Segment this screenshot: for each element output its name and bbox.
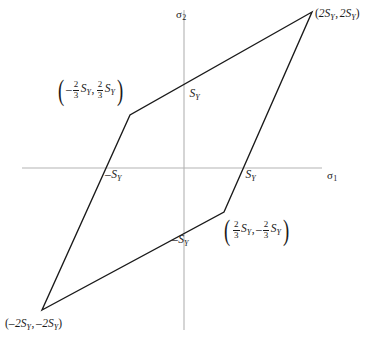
tick-y-negative-subscript: Y xyxy=(184,239,188,248)
yield-surface-figure: σ2 σ1 SY –SY –SY SY (2SY,2SY) (–2SY,–2SY… xyxy=(0,0,390,344)
bottom-left-close-paren: ) xyxy=(58,317,62,329)
lower-right-fraction-2: 2 3 xyxy=(263,220,270,240)
upper-left-denominator-2: 3 xyxy=(97,91,104,100)
upper-left-term-1: – 2 3 SY xyxy=(66,80,91,100)
upper-left-symbol-2: SY xyxy=(104,83,115,97)
upper-left-denominator-1: 3 xyxy=(73,91,80,100)
x-axis-label: σ1 xyxy=(327,170,337,183)
tick-label-x-negative: –SY xyxy=(105,169,121,183)
upper-left-fraction-2: 2 3 xyxy=(97,80,104,100)
x-axis-subscript: 1 xyxy=(333,174,337,183)
lower-right-symbol-2: SY xyxy=(270,223,281,237)
upper-left-subscript-2: Y xyxy=(111,88,115,97)
upper-left-symbol-1: SY xyxy=(80,83,91,97)
upper-left-minus-1: – xyxy=(66,84,72,96)
yield-locus-parallelogram xyxy=(42,12,312,310)
tick-y-positive-subscript: Y xyxy=(195,93,199,102)
lower-right-symbol-1: SY xyxy=(240,223,251,237)
lower-right-numerator-2: 2 xyxy=(263,220,270,229)
vertex-label-upper-left: ( – 2 3 SY , 2 3 SY ) xyxy=(56,78,125,102)
tick-label-y-negative: –SY xyxy=(172,234,188,248)
tick-label-x-positive: SY xyxy=(245,169,256,183)
lower-right-term-1: 2 3 SY xyxy=(232,220,251,240)
tick-x-negative-subscript: Y xyxy=(117,174,121,183)
lower-right-close-paren: ) xyxy=(283,218,289,242)
top-right-close-paren: ) xyxy=(356,7,360,19)
tick-label-y-positive: SY xyxy=(189,88,200,102)
vertex-label-lower-right: ( 2 3 SY , – 2 3 SY ) xyxy=(222,218,291,242)
upper-left-numerator-2: 2 xyxy=(97,80,104,89)
tick-x-positive-subscript: Y xyxy=(251,174,255,183)
lower-right-term-2: – 2 3 SY xyxy=(256,220,281,240)
upper-left-open-paren: ( xyxy=(58,78,64,102)
upper-left-numerator-1: 2 xyxy=(73,80,80,89)
lower-right-open-paren: ( xyxy=(224,218,230,242)
y-axis-label: σ2 xyxy=(176,9,186,22)
lower-right-subscript-2: Y xyxy=(277,228,281,237)
vertex-label-bottom-left: (–2SY,–2SY) xyxy=(5,318,62,332)
lower-right-minus-2: – xyxy=(256,224,262,236)
lower-right-denominator-1: 3 xyxy=(233,231,240,240)
vertex-label-top-right: (2SY,2SY) xyxy=(315,8,359,22)
upper-left-close-paren: ) xyxy=(117,78,123,102)
upper-left-term-2: 2 3 SY xyxy=(96,80,115,100)
lower-right-fraction-1: 2 3 xyxy=(233,220,240,240)
y-axis-subscript: 2 xyxy=(182,13,186,22)
lower-right-numerator-1: 2 xyxy=(233,220,240,229)
upper-left-fraction-1: 2 3 xyxy=(73,80,80,100)
lower-right-denominator-2: 3 xyxy=(263,231,270,240)
